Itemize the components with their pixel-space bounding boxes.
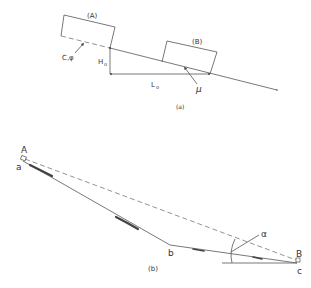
- failure-surface-dashed: [61, 36, 110, 48]
- point-B-label: B: [296, 249, 302, 259]
- caption-a: (a): [176, 103, 184, 110]
- length-sub: o: [156, 84, 159, 90]
- chord-dashed: [25, 159, 296, 260]
- motion-streak: [253, 257, 262, 259]
- figure-a: (A) (B) C,φ H o L o μ (a): [61, 12, 278, 110]
- point-c-label: c: [297, 266, 302, 276]
- block-b: [162, 41, 217, 74]
- motion-streak: [116, 217, 138, 229]
- motion-streak: [30, 165, 52, 176]
- angle-alpha-label: α: [261, 229, 267, 239]
- point-a-label: a: [16, 162, 22, 172]
- height-label: H: [98, 58, 103, 66]
- block-b-label: (B): [192, 38, 203, 46]
- diagram-canvas: (A) (B) C,φ H o L o μ (a) A a b B c α (b…: [0, 0, 311, 288]
- length-label: L: [151, 81, 155, 89]
- friction-label: μ: [195, 84, 202, 94]
- slope-profile: [23, 161, 297, 263]
- height-sub: o: [104, 61, 107, 67]
- point-A-label: A: [21, 145, 28, 155]
- point-b-label: b: [168, 248, 174, 258]
- block-start: [20, 155, 26, 160]
- caption-b: (b): [148, 265, 158, 273]
- slope-line-a: [110, 48, 277, 90]
- cohesion-friction-label: C,φ: [62, 54, 74, 62]
- cohesion-arrow: [75, 44, 83, 53]
- block-a-label: (A): [87, 12, 98, 20]
- friction-arrow: [185, 68, 197, 84]
- figure-b: A a b B c α (b): [16, 145, 302, 276]
